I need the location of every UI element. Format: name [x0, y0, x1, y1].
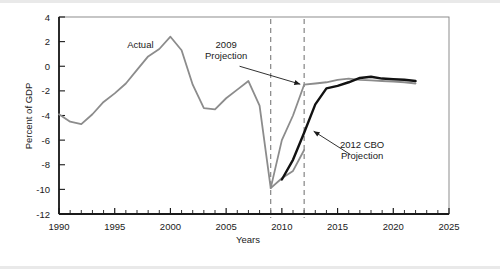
x-tick-label: 2000 [160, 221, 181, 232]
y-tick-label: 2 [45, 36, 50, 47]
x-tick-label: 1990 [48, 221, 69, 232]
deficit-line-chart: 19901995200020052010201520202025 420-2-4… [0, 0, 500, 269]
x-tick-label: 2005 [216, 221, 237, 232]
projection-2009-label-arrow-head [294, 80, 300, 85]
x-tick-label: 1995 [104, 221, 125, 232]
projection-2012-cbo-label-line-1: Projection [341, 150, 383, 161]
y-tick-label: -6 [42, 135, 50, 146]
y-tick-label: 0 [45, 61, 50, 72]
y-tick-label: -12 [36, 209, 50, 220]
y-tick-label: -8 [42, 159, 50, 170]
x-tick-label: 2010 [271, 221, 292, 232]
x-tick-label: 2025 [438, 221, 459, 232]
y-tick-label: -10 [36, 184, 50, 195]
reference-lines [271, 19, 304, 218]
x-tick-label: 2015 [327, 221, 348, 232]
projection-2012-cbo-label-line-0: 2012 CBO [340, 139, 384, 150]
plot-frame [59, 17, 449, 214]
y-tick-label: -4 [42, 110, 50, 121]
x-axis-tick-labels: 19901995200020052010201520202025 [48, 221, 459, 232]
projection-2012-cbo-label-arrow-head [314, 131, 320, 136]
x-axis-title: Years [236, 234, 260, 245]
y-axis-tick-labels: 420-2-4-6-8-10-12 [36, 12, 50, 220]
y-tick-label: -2 [42, 85, 50, 96]
actual-label-line-0: Actual [127, 39, 153, 50]
y-tick-label: 4 [45, 12, 50, 23]
chart-annotations: Actual2009Projection2012 CBOProjection [127, 39, 384, 161]
projection-2009-label-line-1: Projection [205, 50, 247, 61]
x-tick-label: 2020 [383, 221, 404, 232]
y-axis-ticks [59, 17, 65, 189]
chart-figure: 19901995200020052010201520202025 420-2-4… [0, 0, 500, 269]
y-axis-title: Percent of GDP [23, 83, 34, 150]
series-actual [59, 37, 304, 188]
projection-2009-label-line-0: 2009 [216, 39, 237, 50]
